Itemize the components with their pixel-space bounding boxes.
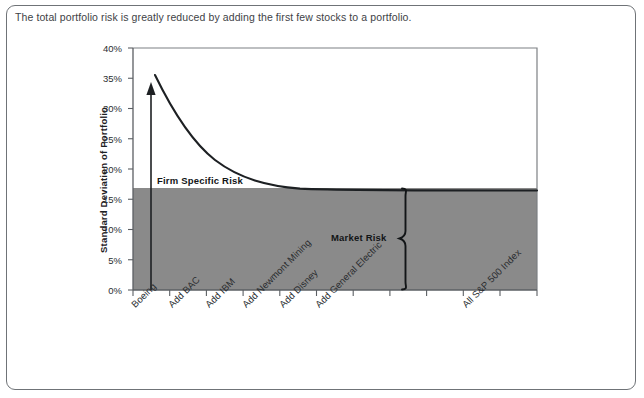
y-tick-label: 20%: [92, 164, 122, 175]
y-tick-label: 10%: [92, 224, 122, 235]
market-risk-label: Market Risk: [331, 232, 387, 243]
y-tick-label: 15%: [92, 194, 122, 205]
y-tick-label: 30%: [92, 103, 122, 114]
risk-curve: [155, 75, 537, 191]
y-tick-marks: [128, 48, 133, 290]
firm-specific-risk-label: Firm Specific Risk: [157, 175, 243, 186]
y-tick-label: 5%: [92, 255, 122, 266]
y-tick-label: 25%: [92, 134, 122, 145]
y-tick-label: 40%: [92, 43, 122, 54]
y-tick-label: 35%: [92, 73, 122, 84]
y-tick-label: 0%: [92, 285, 122, 296]
